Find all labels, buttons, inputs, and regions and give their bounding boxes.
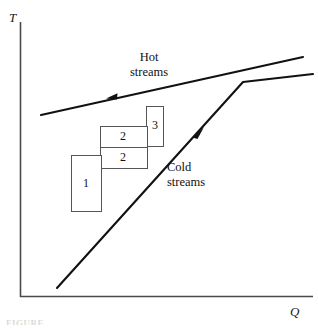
cold-curve-arrow-icon: [193, 127, 205, 139]
cold-streams-label-line2: streams: [167, 175, 213, 190]
block-2-upper-label: 2: [116, 130, 130, 142]
block-3-label: 3: [148, 119, 162, 131]
block-1-label: 1: [79, 177, 93, 189]
caption-fragment: FIGURE: [6, 319, 80, 325]
hot-streams-label: Hot streams: [113, 50, 185, 80]
hot-curve-arrow-icon: [106, 93, 118, 99]
hot-streams-label-line2: streams: [113, 65, 185, 80]
y-axis-label: T: [9, 11, 16, 24]
block-2-lower-label: 2: [116, 151, 130, 163]
x-axis-label: Q: [290, 305, 299, 318]
cold-streams-label: Cold streams: [167, 160, 213, 190]
cold-streams-label-line1: Cold: [167, 160, 213, 175]
figure-canvas: T Q Hot streams Cold streams 3 2 2 1 FIG…: [0, 0, 318, 328]
hot-streams-label-line1: Hot: [113, 50, 185, 65]
